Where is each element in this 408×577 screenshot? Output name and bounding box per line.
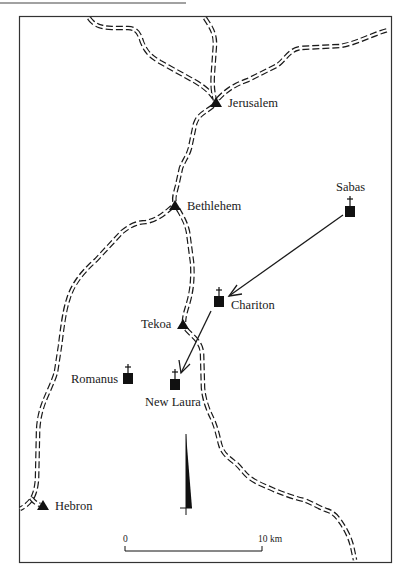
square-with-cross-icon (214, 287, 224, 307)
road-northeast (218, 30, 388, 99)
monastery-label-romanus: Romanus (71, 372, 118, 386)
square-with-cross-icon (170, 369, 180, 390)
road-bethlehem-hebron (20, 207, 172, 509)
scale-start-label: 0 (123, 534, 128, 544)
town-tekoa[interactable]: Tekoa (141, 317, 189, 331)
map-frame (20, 17, 392, 563)
roads (20, 18, 388, 560)
monastery-label-chariton: Chariton (231, 298, 275, 312)
town-hebron[interactable]: Hebron (37, 499, 93, 513)
north-arrow-icon (180, 434, 192, 515)
monastery-label-sabas: Sabas (336, 180, 365, 194)
road-tekoa-southeast (186, 329, 355, 560)
town-label-jerusalem: Jerusalem (228, 96, 278, 110)
monastery-new-laura[interactable]: New Laura (145, 369, 201, 409)
triangle-icon (169, 200, 181, 210)
town-label-tekoa: Tekoa (141, 317, 172, 331)
road-bethlehem-tekoa (178, 209, 192, 322)
triangle-icon (177, 319, 189, 329)
monastery-chariton[interactable]: Chariton (214, 287, 275, 312)
scale-end-label: 10 km (258, 534, 283, 544)
square-with-cross-icon (123, 364, 133, 384)
town-label-hebron: Hebron (55, 499, 93, 513)
map-canvas: Jerusalem Bethlehem Tekoa Hebron Sabas C… (0, 0, 408, 577)
road-jerusalem-bethlehem (174, 106, 213, 204)
square-with-cross-icon (345, 196, 355, 217)
scale-bar: 0 10 km (123, 534, 283, 551)
arrow-sabas-to-chariton (229, 215, 343, 296)
monastery-romanus[interactable]: Romanus (71, 364, 133, 386)
monastery-label-new-laura: New Laura (145, 395, 201, 409)
town-label-bethlehem: Bethlehem (187, 199, 241, 213)
road-northwest (89, 18, 215, 100)
monastery-sabas[interactable]: Sabas (336, 180, 365, 217)
road-hebron-spur (31, 498, 40, 505)
